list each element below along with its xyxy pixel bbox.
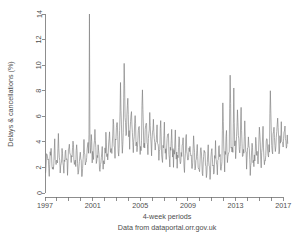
y-tick-label: 6 bbox=[35, 114, 44, 118]
x-tick-label: 2017 bbox=[275, 201, 291, 210]
y-tick-label: 8 bbox=[35, 89, 44, 93]
x-axis-title: 4-week periods bbox=[143, 212, 192, 221]
y-tick-label: 2 bbox=[35, 165, 44, 169]
x-tick-label: 2013 bbox=[228, 201, 244, 210]
x-tick-label: 2009 bbox=[180, 201, 196, 210]
y-tick-label: 10 bbox=[35, 61, 44, 69]
x-tick-label: 1997 bbox=[37, 201, 53, 210]
chart-canvas: 02468101214 199720012005200920132017 Del… bbox=[0, 0, 296, 242]
chart-source-caption: Data from dataportal.orr.gov.uk bbox=[118, 223, 217, 232]
y-tick-label: 12 bbox=[35, 36, 44, 44]
y-tick-label: 0 bbox=[35, 191, 44, 195]
x-tick-label: 2001 bbox=[85, 201, 101, 210]
x-tick-label: 2005 bbox=[132, 201, 148, 210]
y-tick-label: 4 bbox=[35, 140, 44, 144]
chart-figure: 02468101214 199720012005200920132017 Del… bbox=[0, 0, 296, 242]
y-tick-label: 14 bbox=[35, 10, 44, 18]
y-axis-title: Delays & cancellations (%) bbox=[6, 61, 15, 147]
